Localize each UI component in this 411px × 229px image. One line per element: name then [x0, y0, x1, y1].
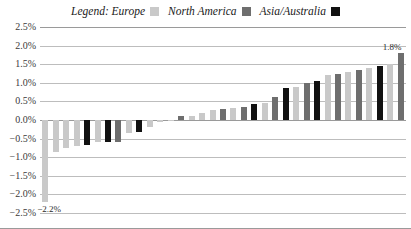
- y-axis-tick-label: −1.5%: [0, 171, 36, 181]
- legend-entry-asia-australia: Asia/Australia: [260, 5, 340, 17]
- bar: [199, 113, 205, 120]
- bar: [178, 116, 184, 120]
- bar: [345, 72, 351, 120]
- y-axis-tick-label: 0.0%: [0, 115, 36, 125]
- legend-swatch-asia-australia: [331, 7, 340, 16]
- bar: [220, 109, 226, 120]
- bar: [63, 120, 69, 148]
- bar: [105, 120, 111, 142]
- y-axis-tick-label: −0.5%: [0, 134, 36, 144]
- bar: [136, 120, 142, 132]
- bar: [126, 120, 132, 133]
- bar: [304, 83, 310, 120]
- y-axis-tick-label: 2.0%: [0, 41, 36, 51]
- bar: [251, 104, 257, 120]
- bar: [398, 53, 404, 120]
- bar: [314, 81, 320, 120]
- bar: [356, 70, 362, 120]
- bar: [115, 120, 121, 142]
- bar: [293, 87, 299, 120]
- bar: [95, 120, 101, 142]
- bar: [168, 120, 174, 121]
- y-axis-tick-label: 0.5%: [0, 96, 36, 106]
- bar: [84, 120, 90, 145]
- bar: [210, 110, 216, 120]
- y-axis-tick-label: −2.0%: [0, 189, 36, 199]
- bar: [42, 120, 48, 202]
- y-axis-tick-label: 1.0%: [0, 78, 36, 88]
- bar: [230, 108, 236, 120]
- legend-label-north-america: North America: [168, 5, 236, 17]
- gridline: [40, 213, 406, 214]
- bar: [283, 88, 289, 120]
- bar-series-container: −2.2%1.8%: [40, 27, 406, 213]
- bar: [189, 116, 195, 120]
- y-axis-tick-label: −2.5%: [0, 208, 36, 218]
- legend-swatch-europe: [150, 7, 159, 16]
- min-value-label: −2.2%: [37, 204, 61, 214]
- legend-label-europe: Legend: Europe: [71, 5, 145, 17]
- bar-chart: Legend: Europe North America Asia/Austra…: [0, 0, 411, 229]
- bar: [387, 64, 393, 120]
- bar: [53, 120, 59, 152]
- max-value-label: 1.8%: [383, 42, 402, 52]
- y-axis-tick-label: 2.5%: [0, 22, 36, 32]
- y-axis-tick-label: 1.5%: [0, 59, 36, 69]
- bar: [241, 107, 247, 120]
- legend-entry-north-america: North America: [168, 5, 250, 17]
- legend-label-asia-australia: Asia/Australia: [260, 5, 326, 17]
- legend-swatch-north-america: [242, 7, 251, 16]
- bar: [325, 75, 331, 120]
- bar: [157, 120, 163, 122]
- bar: [262, 103, 268, 120]
- bar: [377, 66, 383, 120]
- bar: [366, 68, 372, 120]
- legend-entry-europe: Legend: Europe: [71, 5, 159, 17]
- chart-legend: Legend: Europe North America Asia/Austra…: [0, 2, 411, 20]
- bar: [147, 120, 153, 127]
- y-axis-tick-label: −1.0%: [0, 152, 36, 162]
- bar: [74, 120, 80, 146]
- bar: [335, 74, 341, 121]
- bar: [272, 97, 278, 120]
